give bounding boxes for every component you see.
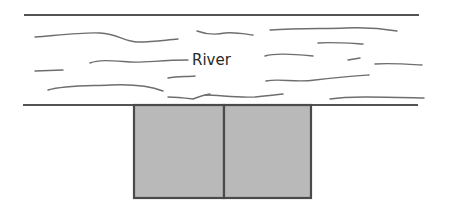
- wave-line: [168, 94, 210, 99]
- wave-line: [197, 31, 253, 35]
- wave-line: [35, 33, 178, 42]
- left-plot: [134, 105, 224, 198]
- wave-line: [348, 58, 360, 60]
- wave-line: [48, 85, 163, 91]
- wave-line: [265, 54, 313, 56]
- wave-line: [266, 75, 369, 81]
- wave-line: [375, 64, 422, 65]
- wave-line: [35, 70, 63, 71]
- right-plot: [224, 105, 311, 198]
- wave-line: [330, 97, 424, 99]
- wave-line: [270, 28, 397, 31]
- wave-line: [168, 76, 195, 78]
- river-label: River: [192, 51, 232, 69]
- river-diagram: River: [0, 0, 449, 211]
- wave-line: [90, 60, 188, 63]
- wave-line: [318, 43, 363, 44]
- wave-line: [205, 94, 283, 97]
